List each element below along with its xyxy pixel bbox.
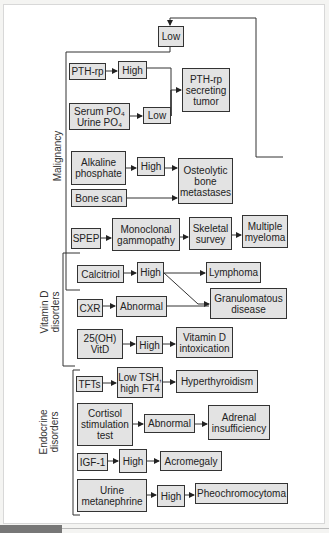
node-acromegaly: Acromegaly <box>160 451 222 471</box>
node-pheo: Pheochromocytoma <box>195 483 288 504</box>
node-igf1: IGF-1 <box>77 453 108 471</box>
node-cxr: CXR <box>77 299 103 317</box>
node-high-vitd: High <box>136 336 163 354</box>
node-high-pthrp: High <box>118 61 147 79</box>
group-label-vitamin-d: Vitamin D disorders <box>39 277 63 347</box>
node-vitd-intox: Vitamin D intoxication <box>176 327 233 358</box>
node-calcitriol: Calcitriol <box>77 265 124 283</box>
node-hyperthyroid: Hyperthyroidism <box>176 370 258 393</box>
node-cortisol: Cortisol stimulation test <box>77 403 133 446</box>
node-bone-scan: Bone scan <box>71 189 127 207</box>
node-low-po4: Low <box>143 107 171 124</box>
node-urine-met: Urine metanephrine <box>77 479 147 512</box>
node-high-calcitriol: High <box>137 262 164 283</box>
node-low-top: Low <box>158 26 184 47</box>
group-label-endocrine: Endocrine disorders <box>38 397 62 467</box>
node-po4-urine: Urine PO₄ <box>77 117 122 128</box>
node-high-met: High <box>157 485 185 507</box>
group-label-malignancy: Malignancy <box>52 121 64 191</box>
node-adrenal: Adrenal insufficiency <box>208 405 270 440</box>
node-pthrp: PTH-rp <box>69 63 106 80</box>
node-monoclonal: Monoclonal gammopathy <box>112 218 180 251</box>
node-alk-phos: Alkaline phosphate <box>71 151 126 185</box>
node-high-igf: High <box>119 449 147 473</box>
node-po4-serum: Serum PO₄ <box>74 106 125 117</box>
node-low-tsh: Low TSH, high FT4 <box>117 367 163 398</box>
node-myeloma: Multiple myeloma <box>242 215 288 248</box>
node-osteolytic: Osteolytic bone metastases <box>178 158 233 204</box>
node-abnormal-cxr: Abnormal <box>116 296 167 317</box>
node-po4: Serum PO₄ Urine PO₄ <box>69 103 130 130</box>
node-high-alk: High <box>137 157 165 176</box>
node-granulomatous: Granulomatous disease <box>210 288 287 319</box>
node-lymphoma: Lymphoma <box>206 262 261 283</box>
node-pthrp-tumor: PTH-rp secreting tumor <box>182 68 230 112</box>
node-vitd25: 25(OH) VitD <box>77 329 123 359</box>
node-abnormal-cort: Abnormal <box>144 414 195 433</box>
node-skeletal: Skeletal survey <box>189 217 232 250</box>
node-spep: SPEP <box>71 228 101 249</box>
node-tfts: TFTs <box>76 376 103 392</box>
